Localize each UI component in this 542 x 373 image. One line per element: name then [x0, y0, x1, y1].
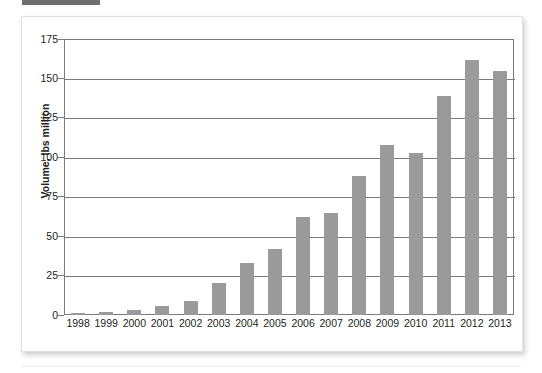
y-axis-tick-label: 100 [40, 152, 58, 163]
x-axis-tick-label: 2010 [401, 317, 431, 329]
bar [99, 312, 113, 315]
bar [324, 213, 338, 316]
x-axis-tick-label: 2005 [260, 317, 290, 329]
x-axis-tick-label: 2004 [232, 317, 262, 329]
bar [296, 217, 310, 315]
y-axis-tick-label: 150 [40, 73, 58, 84]
x-axis-tick-label: 2002 [176, 317, 206, 329]
y-axis-tick-label: 175 [40, 34, 58, 45]
bar [127, 310, 141, 315]
x-axis-tick-label: 2003 [204, 317, 234, 329]
bar-series [64, 39, 514, 315]
chart-panel: Volume, lbs million 0255075100125150175 … [21, 16, 523, 352]
bar [268, 249, 282, 315]
y-axis-tick-label: 125 [40, 112, 58, 123]
bar [155, 306, 169, 315]
x-axis-tick-label: 2009 [372, 317, 402, 329]
x-axis-tick-label: 2007 [316, 317, 346, 329]
x-axis-tick-label: 1999 [91, 317, 121, 329]
x-axis-tick-label: 2013 [485, 317, 515, 329]
y-axis-tick-labels: 0255075100125150175 [22, 39, 58, 315]
bar [380, 145, 394, 315]
x-axis-tick-label: 1998 [63, 317, 93, 329]
y-axis-tick-label: 50 [46, 231, 58, 242]
y-axis-tick-label: 75 [46, 191, 58, 202]
x-axis-tick-label: 2012 [457, 317, 487, 329]
bar [184, 301, 198, 315]
bottom-divider [21, 366, 521, 367]
bar [352, 176, 366, 315]
y-axis-tick-label: 25 [46, 270, 58, 281]
bar [465, 60, 479, 315]
x-axis-tick-label: 2011 [429, 317, 459, 329]
bar [493, 71, 507, 315]
x-axis-tick-labels: 1998199920002001200220032004200520062007… [64, 317, 514, 335]
bar-chart: Volume, lbs million 0255075100125150175 … [22, 17, 522, 351]
x-axis-tick-label: 2001 [147, 317, 177, 329]
bar [240, 263, 254, 315]
bar [212, 283, 226, 315]
x-axis-tick-label: 2000 [119, 317, 149, 329]
bar [71, 313, 85, 315]
bar [437, 96, 451, 315]
top-left-bar-fragment [22, 0, 100, 5]
x-axis-tick-label: 2006 [288, 317, 318, 329]
x-axis-tick-label: 2008 [344, 317, 374, 329]
bar [409, 153, 423, 315]
